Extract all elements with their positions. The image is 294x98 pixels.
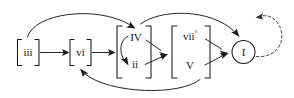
edge-arc (121, 36, 128, 60)
node-group-predominant: IV ii (117, 26, 151, 78)
node-group-dominant: vii° V (172, 26, 210, 78)
arrowhead-icon (120, 57, 128, 66)
bracket-right-iii (35, 40, 39, 66)
edge-dashed-arc (257, 16, 282, 57)
bracket-right-vi (87, 40, 91, 66)
edge-iii-to-vi (41, 49, 70, 56)
node-vi: vi (70, 40, 91, 66)
node-iii: iii (18, 40, 40, 66)
edge-line (206, 39, 222, 49)
edge-ii-to-dominant (145, 54, 168, 65)
bracket-left-viio-V (172, 26, 177, 78)
node-label-vi: vi (76, 46, 85, 58)
edge-tonic-dashed-loop (256, 13, 282, 57)
node-label-viio: vii° (183, 29, 198, 41)
edge-line (146, 40, 161, 51)
node-label-IV: IV (130, 31, 142, 43)
bracket-right-viio-V (205, 26, 210, 78)
diagram-canvas: iii vi IV ii vii° V I (0, 0, 294, 98)
edge-vi-to-predominant (93, 49, 116, 56)
edge-dominant-to-vi-arc (80, 69, 200, 91)
edge-V-to-tonic (205, 53, 229, 65)
node-tonic-I: I (232, 41, 255, 64)
edge-IV-to-ii-internal (120, 36, 128, 66)
bracket-left-vi (70, 40, 74, 66)
node-label-I: I (242, 46, 246, 58)
bracket-right-IV-ii (146, 26, 151, 78)
node-label-iii: iii (23, 46, 32, 58)
node-label-V: V (186, 59, 194, 71)
harmonic-function-diagram: iii vi IV ii vii° V I (0, 0, 294, 98)
bracket-left-iii (18, 40, 22, 66)
edge-line (145, 57, 162, 65)
node-label-ii: ii (132, 58, 138, 70)
edge-line (205, 56, 222, 65)
edge-arc (28, 14, 130, 37)
arrowhead-icon (256, 13, 264, 20)
edge-iii-to-IV-arc (28, 14, 136, 37)
arrowhead-icon (126, 22, 135, 29)
edge-arc (85, 74, 200, 91)
